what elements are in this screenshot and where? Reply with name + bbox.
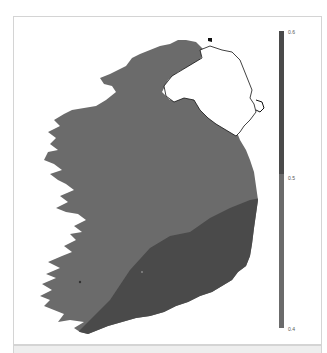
colorbar-tick-min: 0.4 [288, 326, 295, 332]
bottom-bar [13, 345, 322, 353]
map-speck [141, 271, 143, 273]
ireland-map [0, 0, 327, 353]
colorbar-lower-segment [279, 174, 284, 328]
map-speck [79, 281, 81, 283]
colorbar-tick-mid: 0.5 [288, 175, 295, 181]
colorbar-tick-max: 0.6 [288, 29, 295, 35]
colorbar-upper-segment [279, 31, 284, 174]
